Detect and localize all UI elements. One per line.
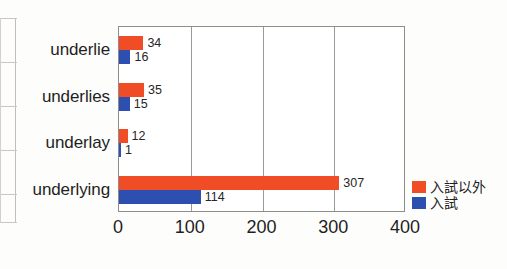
bar-underlie-exam[interactable] bbox=[119, 50, 130, 64]
bar-value-label: 34 bbox=[143, 37, 161, 50]
bar-underlies-exam[interactable] bbox=[119, 97, 130, 111]
y-axis-label-underlie: underlie bbox=[50, 41, 110, 58]
bar-line: 307 bbox=[119, 176, 404, 190]
bar-line: 35 bbox=[119, 83, 404, 97]
bar-value-label: 12 bbox=[128, 130, 146, 143]
x-tick-label-0: 0 bbox=[113, 218, 123, 236]
bar-value-label: 16 bbox=[130, 51, 148, 64]
bar-underlies-non-exam[interactable] bbox=[119, 83, 144, 97]
bar-value-label: 35 bbox=[144, 84, 162, 97]
bar-group: 3416 bbox=[119, 27, 404, 74]
x-tick-label-200: 200 bbox=[246, 218, 276, 236]
chart-legend: 入試以外入試 bbox=[412, 180, 486, 210]
bar-chart: 34163515121307114 underlieunderliesunder… bbox=[0, 0, 507, 269]
y-axis-category-labels: underlieunderliesunderlayunderlying bbox=[0, 26, 114, 212]
bar-underlie-non-exam[interactable] bbox=[119, 36, 143, 50]
x-tick-label-100: 100 bbox=[175, 218, 205, 236]
x-tick-label-300: 300 bbox=[318, 218, 348, 236]
bar-underlying-non-exam[interactable] bbox=[119, 176, 339, 190]
legend-swatch-icon bbox=[412, 197, 426, 209]
legend-item-exam[interactable]: 入試 bbox=[412, 196, 486, 210]
plot-area: 34163515121307114 bbox=[118, 26, 405, 212]
legend-label: 入試 bbox=[430, 196, 458, 210]
bar-line: 16 bbox=[119, 50, 404, 64]
bar-group: 307114 bbox=[119, 167, 404, 214]
bar-underlay-non-exam[interactable] bbox=[119, 129, 128, 143]
bar-line: 12 bbox=[119, 129, 404, 143]
legend-item-non-exam[interactable]: 入試以外 bbox=[412, 180, 486, 194]
bar-group: 121 bbox=[119, 120, 404, 167]
legend-label: 入試以外 bbox=[430, 180, 486, 194]
bar-line: 114 bbox=[119, 190, 404, 204]
bar-group: 3515 bbox=[119, 74, 404, 121]
x-axis-tick-labels: 0100200300400 bbox=[0, 214, 507, 248]
bar-line: 1 bbox=[119, 143, 404, 157]
y-axis-label-underlay: underlay bbox=[46, 134, 110, 151]
bar-line: 34 bbox=[119, 36, 404, 50]
y-axis-label-underlying: underlying bbox=[33, 180, 110, 197]
bar-line: 15 bbox=[119, 97, 404, 111]
x-tick-label-400: 400 bbox=[390, 218, 420, 236]
y-axis-label-underlies: underlies bbox=[42, 87, 110, 104]
bar-underlying-exam[interactable] bbox=[119, 190, 201, 204]
bar-value-label: 1 bbox=[121, 144, 132, 157]
legend-swatch-icon bbox=[412, 181, 426, 193]
bar-value-label: 307 bbox=[339, 177, 364, 190]
bar-rows: 34163515121307114 bbox=[119, 27, 404, 211]
bar-value-label: 114 bbox=[201, 191, 225, 204]
bar-value-label: 15 bbox=[130, 98, 148, 111]
